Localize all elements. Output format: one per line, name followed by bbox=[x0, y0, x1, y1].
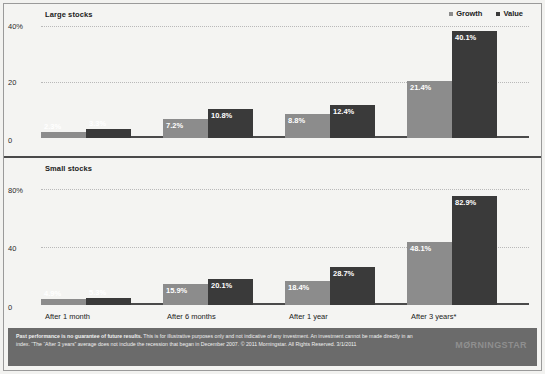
bar-value-label: 7.2% bbox=[166, 121, 183, 130]
bar-value: 40.1% bbox=[452, 31, 497, 138]
bar-value-label: 3.3% bbox=[89, 119, 106, 128]
bar-value-label: 10.8% bbox=[211, 111, 232, 120]
bar-value: 82.9% bbox=[452, 196, 497, 305]
bar-fill bbox=[41, 132, 86, 138]
x-axis-label-after-6-months: After 6 months bbox=[163, 312, 285, 321]
x-axis-labels: After 1 month After 6 months After 1 yea… bbox=[41, 312, 529, 321]
ytick-large-2: 0 bbox=[8, 136, 38, 145]
morningstar-logo: MØRNINGSTAR bbox=[455, 340, 527, 350]
bar-value: 10.8% bbox=[208, 109, 253, 138]
ytick-small-0: 80% bbox=[8, 186, 38, 195]
bar-growth: 21.4% bbox=[407, 81, 452, 138]
bar-group-after-1-year-large: 8.8% 12.4% bbox=[285, 26, 407, 138]
bar-value-label: 4.9% bbox=[44, 289, 61, 298]
bar-fill bbox=[452, 196, 497, 305]
panel-title-small-stocks: Small stocks bbox=[45, 164, 92, 173]
footer-text: Past performance is no guarantee of futu… bbox=[16, 332, 416, 348]
bar-group-after-3-years-large: 21.4% 40.1% bbox=[407, 26, 529, 138]
bar-group-after-3-years-small: 48.1% 82.9% bbox=[407, 189, 529, 305]
bar-groups-small: 4.9% 5.3% 15.9% bbox=[41, 189, 529, 305]
chart-frame: Large stocks Growth Value 40% 20 0 bbox=[3, 3, 542, 371]
bar-groups-large: 2.3% 3.3% 7.2% bbox=[41, 26, 529, 138]
bar-value-label: 15.9% bbox=[166, 286, 187, 295]
bar-growth: 4.9% bbox=[41, 299, 86, 305]
legend-label-value: Value bbox=[503, 9, 523, 18]
bar-value-label: 20.1% bbox=[211, 281, 232, 290]
bar-value-label: 2.3% bbox=[44, 122, 61, 131]
footer-disclaimer: Past performance is no guarantee of futu… bbox=[8, 328, 537, 366]
legend-swatch-value-icon bbox=[496, 12, 500, 16]
bar-value: 28.7% bbox=[330, 267, 375, 305]
bar-value-label: 5.3% bbox=[89, 288, 106, 297]
bar-fill bbox=[86, 298, 131, 305]
bar-growth: 8.8% bbox=[285, 114, 330, 138]
chart-legend: Growth Value bbox=[449, 9, 523, 18]
x-axis-label-after-1-month: After 1 month bbox=[41, 312, 163, 321]
bar-growth: 48.1% bbox=[407, 242, 452, 305]
legend-label-growth: Growth bbox=[456, 9, 482, 18]
ytick-small-2: 0 bbox=[8, 303, 38, 312]
panel-small-stocks: Small stocks 80% 40 0 4.9% 5.3% bbox=[4, 157, 541, 327]
panel-large-stocks: Large stocks Growth Value 40% 20 0 bbox=[4, 4, 541, 157]
bar-fill bbox=[86, 129, 131, 138]
bar-growth: 7.2% bbox=[163, 119, 208, 138]
bar-group-after-6-months-large: 7.2% 10.8% bbox=[163, 26, 285, 138]
bar-growth: 2.3% bbox=[41, 132, 86, 138]
ytick-small-1: 40 bbox=[8, 244, 38, 253]
bar-growth: 15.9% bbox=[163, 284, 208, 305]
legend-item-value: Value bbox=[496, 9, 523, 18]
bar-value: 20.1% bbox=[208, 279, 253, 305]
bar-group-after-1-month-large: 2.3% 3.3% bbox=[41, 26, 163, 138]
plot-area-small-stocks: 80% 40 0 4.9% 5.3% bbox=[41, 189, 529, 305]
bar-value-label: 8.8% bbox=[288, 116, 305, 125]
ytick-large-1: 20 bbox=[8, 78, 38, 87]
bar-value-label: 28.7% bbox=[333, 269, 354, 278]
bar-group-after-1-month-small: 4.9% 5.3% bbox=[41, 189, 163, 305]
bar-value-label: 18.4% bbox=[288, 283, 309, 292]
bar-value: 5.3% bbox=[86, 298, 131, 305]
footer-lead: Past performance is no guarantee of futu… bbox=[16, 333, 142, 339]
legend-swatch-growth-icon bbox=[449, 12, 453, 16]
bar-value: 3.3% bbox=[86, 129, 131, 138]
ytick-large-0: 40% bbox=[8, 22, 38, 31]
plot-area-large-stocks: 40% 20 0 2.3% 3.3% bbox=[41, 26, 529, 138]
bar-group-after-1-year-small: 18.4% 28.7% bbox=[285, 189, 407, 305]
bar-group-after-6-months-small: 15.9% 20.1% bbox=[163, 189, 285, 305]
legend-item-growth: Growth bbox=[449, 9, 482, 18]
bar-value-label: 48.1% bbox=[410, 244, 431, 253]
bar-fill bbox=[41, 299, 86, 305]
chart-page: Large stocks Growth Value 40% 20 0 bbox=[0, 0, 545, 374]
bar-value: 12.4% bbox=[330, 105, 375, 138]
x-axis-label-after-1-year: After 1 year bbox=[285, 312, 407, 321]
bar-fill bbox=[452, 31, 497, 138]
bar-value-label: 40.1% bbox=[455, 33, 476, 42]
bar-value-label: 12.4% bbox=[333, 107, 354, 116]
bar-value-label: 82.9% bbox=[455, 198, 476, 207]
x-axis-label-after-3-years: After 3 years* bbox=[407, 312, 529, 321]
bar-growth: 18.4% bbox=[285, 281, 330, 305]
panel-title-large-stocks: Large stocks bbox=[45, 10, 92, 19]
bar-value-label: 21.4% bbox=[410, 83, 431, 92]
